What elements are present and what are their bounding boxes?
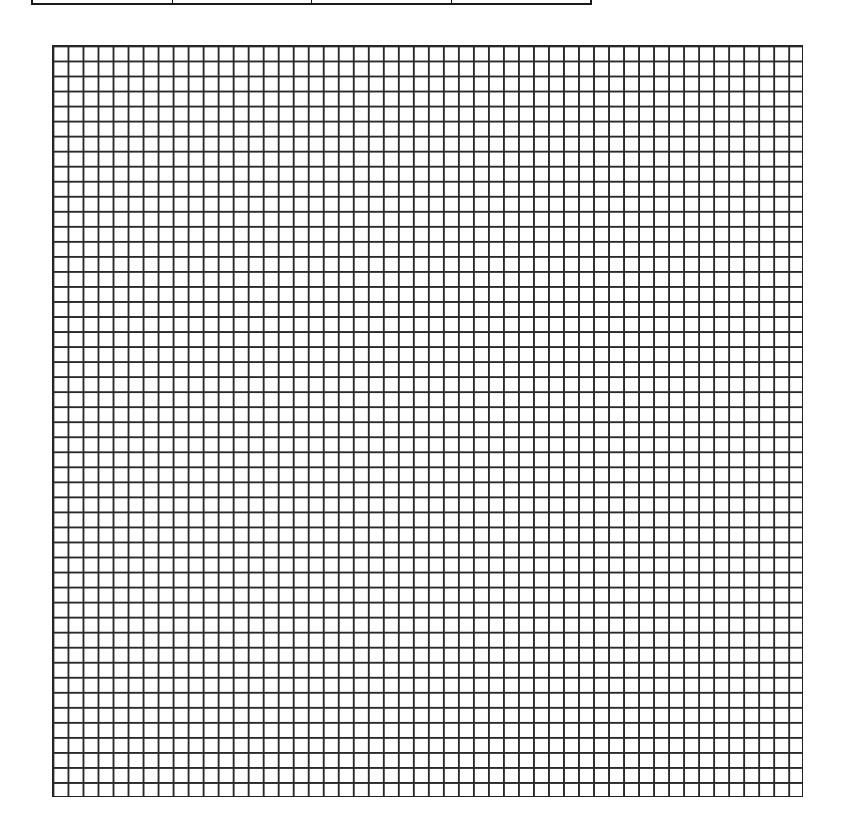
square-grid: [52, 45, 803, 797]
header-cell-3: [312, 0, 452, 3]
graph-paper-page: [0, 0, 842, 829]
header-cell-4: [452, 0, 591, 3]
header-table: [31, 0, 592, 5]
header-cell-2: [173, 0, 313, 3]
header-cell-1: [33, 0, 173, 3]
